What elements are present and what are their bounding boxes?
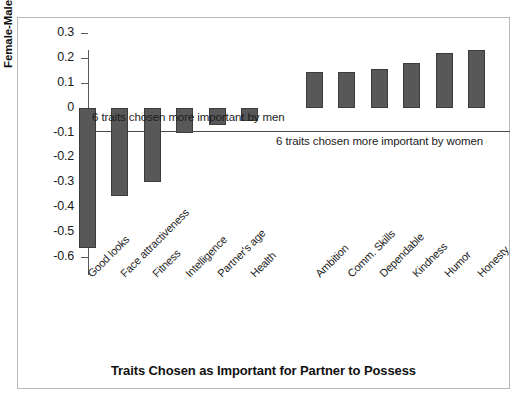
bar xyxy=(79,108,96,249)
y-axis-tick-label: -0.3 xyxy=(26,174,74,188)
y-axis-tick-label: 0 xyxy=(26,100,74,114)
bar xyxy=(338,72,355,108)
bar xyxy=(306,72,323,108)
y-axis-title: Female-Male Difference in Ranks xyxy=(2,0,14,68)
annotation-women: 6 traits chosen more important by women xyxy=(276,135,483,147)
y-axis-tick-label: -0.5 xyxy=(26,224,74,238)
y-axis-tick-label: -0.2 xyxy=(26,149,74,163)
y-axis-tick xyxy=(81,58,88,59)
x-axis-title: Traits Chosen as Important for Partner t… xyxy=(18,363,509,378)
bar xyxy=(403,63,420,108)
y-axis-tick-label: -0.1 xyxy=(26,125,74,139)
y-axis-tick xyxy=(81,33,88,34)
bar xyxy=(371,69,388,108)
y-axis-tick-label: -0.4 xyxy=(26,199,74,213)
x-axis-tick-label: Honesty xyxy=(475,243,511,279)
x-axis-tick-label: Humor xyxy=(442,248,473,279)
annotation-men: 6 traits chosen more important by men xyxy=(92,111,285,123)
y-axis-tick-label: 0.3 xyxy=(26,25,74,39)
y-axis-tick xyxy=(81,83,88,84)
x-axis-tick-label: Fitness xyxy=(150,247,183,280)
y-axis-tick-label: -0.6 xyxy=(26,249,74,263)
bar xyxy=(468,50,485,107)
y-axis-tick xyxy=(81,257,88,258)
y-axis-tick-label: 0.1 xyxy=(26,75,74,89)
chart-figure: Female-Male Difference in Ranks 0.30.20.… xyxy=(17,17,510,389)
y-axis-tick-label: 0.2 xyxy=(26,50,74,64)
x-axis-tick-label: Ambition xyxy=(313,242,351,280)
x-axis-tick-label: Health xyxy=(248,249,278,279)
bar xyxy=(436,53,453,108)
